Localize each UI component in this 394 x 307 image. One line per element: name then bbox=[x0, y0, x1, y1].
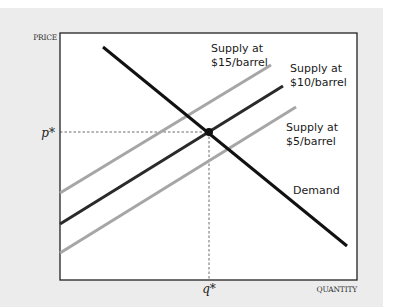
demand-label: Demand bbox=[293, 184, 340, 197]
supply-15-label-line1: Supply at bbox=[211, 42, 264, 55]
supply-5-label-line1: Supply at bbox=[286, 121, 339, 134]
supply-demand-chart: PRICE QUANTITY p* q* Supply at $15/barre… bbox=[0, 0, 394, 307]
x-axis-label: QUANTITY bbox=[316, 285, 358, 294]
equilibrium-point bbox=[205, 128, 213, 136]
supply-15-label-line2: $15/barrel bbox=[211, 56, 268, 69]
p-star-label: p* bbox=[41, 126, 55, 140]
supply-10-label-line2: $10/barrel bbox=[290, 76, 347, 89]
y-axis-label: PRICE bbox=[33, 33, 57, 42]
supply-10-label-line1: Supply at bbox=[290, 62, 343, 75]
supply-5-label-line2: $5/barrel bbox=[286, 135, 336, 148]
q-star-label: q* bbox=[202, 282, 216, 296]
